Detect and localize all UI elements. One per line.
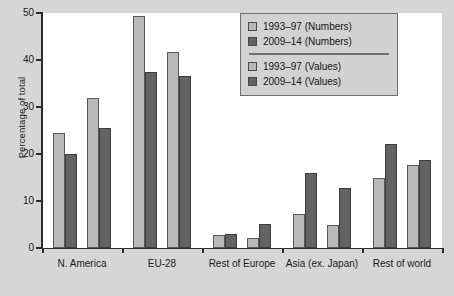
bar bbox=[407, 165, 419, 248]
bar bbox=[53, 133, 65, 248]
bar bbox=[385, 144, 397, 248]
y-tick-label: 0 bbox=[4, 242, 34, 253]
legend-swatch-icon bbox=[248, 37, 257, 46]
x-tick-mark bbox=[202, 248, 204, 253]
legend-item-numbers-1993-97: 1993–97 (Numbers) bbox=[248, 19, 390, 34]
legend-label: 1993–97 (Numbers) bbox=[263, 21, 352, 32]
bar-chart: Percentage of total 01020304050 N. Ameri… bbox=[0, 0, 454, 296]
bar bbox=[213, 235, 225, 248]
y-tick-label: 40 bbox=[4, 54, 34, 65]
bar bbox=[167, 52, 179, 248]
y-tick-mark bbox=[36, 106, 42, 108]
y-tick-label: 50 bbox=[4, 7, 34, 18]
x-tick-label: N. America bbox=[58, 258, 107, 269]
y-tick-mark bbox=[36, 200, 42, 202]
y-tick-label: 30 bbox=[4, 101, 34, 112]
legend-label: 2009–14 (Values) bbox=[263, 76, 341, 87]
bar bbox=[133, 16, 145, 248]
legend-item-values-1993-97: 1993–97 (Values) bbox=[248, 59, 390, 74]
y-tick-label: 20 bbox=[4, 148, 34, 159]
legend-swatch-icon bbox=[248, 22, 257, 31]
x-tick-label: Asia (ex. Japan) bbox=[286, 258, 358, 269]
y-axis-line bbox=[41, 12, 43, 249]
bar bbox=[87, 98, 99, 248]
bar bbox=[145, 72, 157, 248]
y-tick-mark bbox=[36, 153, 42, 155]
x-tick-mark bbox=[122, 248, 124, 253]
legend-swatch-icon bbox=[248, 62, 257, 71]
x-tick-mark bbox=[442, 248, 444, 253]
legend-label: 2009–14 (Numbers) bbox=[263, 36, 352, 47]
legend-divider bbox=[249, 53, 389, 55]
bar bbox=[373, 178, 385, 249]
x-tick-label: Rest of world bbox=[373, 258, 431, 269]
y-tick-mark bbox=[36, 12, 42, 14]
bar bbox=[305, 173, 317, 248]
legend-label: 1993–97 (Values) bbox=[263, 61, 341, 72]
legend-swatch-icon bbox=[248, 77, 257, 86]
x-tick-mark bbox=[282, 248, 284, 253]
bar bbox=[293, 214, 305, 248]
bar bbox=[259, 224, 271, 248]
chart-legend: 1993–97 (Numbers) 2009–14 (Numbers) 1993… bbox=[240, 13, 398, 96]
x-tick-mark bbox=[362, 248, 364, 253]
x-tick-label: EU-28 bbox=[148, 258, 176, 269]
legend-item-numbers-2009-14: 2009–14 (Numbers) bbox=[248, 34, 390, 49]
x-axis-line bbox=[41, 248, 442, 250]
y-tick-label: 10 bbox=[4, 195, 34, 206]
bar bbox=[339, 188, 351, 248]
x-tick-mark bbox=[42, 248, 44, 253]
bar bbox=[419, 160, 431, 248]
bar bbox=[99, 128, 111, 248]
bar bbox=[225, 234, 237, 248]
y-tick-mark bbox=[36, 59, 42, 61]
x-tick-label: Rest of Europe bbox=[209, 258, 276, 269]
bar bbox=[327, 225, 339, 249]
bar bbox=[179, 76, 191, 248]
bar bbox=[247, 238, 259, 248]
bar bbox=[65, 154, 77, 248]
legend-item-values-2009-14: 2009–14 (Values) bbox=[248, 74, 390, 89]
